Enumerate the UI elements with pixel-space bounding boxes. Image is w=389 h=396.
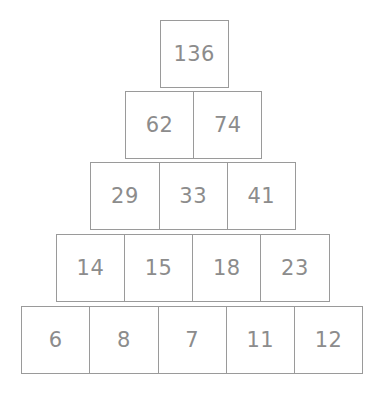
pyramid-cell[interactable]: 74 (193, 91, 262, 159)
pyramid-cell[interactable]: 136 (160, 20, 229, 88)
pyramid-row-4: 14 15 18 23 (56, 234, 330, 302)
pyramid-cell[interactable]: 12 (294, 306, 363, 374)
pyramid-cell[interactable]: 8 (89, 306, 158, 374)
pyramid-cell[interactable]: 7 (158, 306, 227, 374)
pyramid-cell[interactable]: 29 (90, 162, 159, 230)
pyramid-cell[interactable]: 62 (125, 91, 194, 159)
pyramid-cell[interactable]: 11 (226, 306, 295, 374)
pyramid-cell[interactable]: 6 (21, 306, 90, 374)
number-pyramid: 136 62 74 29 33 41 14 15 18 23 6 8 7 11 … (0, 0, 389, 396)
pyramid-cell[interactable]: 33 (159, 162, 228, 230)
pyramid-row-2: 62 74 (125, 91, 262, 159)
pyramid-cell[interactable]: 23 (260, 234, 329, 302)
pyramid-cell[interactable]: 15 (124, 234, 193, 302)
pyramid-cell[interactable]: 14 (56, 234, 125, 302)
pyramid-row-5: 6 8 7 11 12 (21, 306, 363, 374)
pyramid-cell[interactable]: 41 (227, 162, 296, 230)
pyramid-row-3: 29 33 41 (90, 162, 296, 230)
pyramid-cell[interactable]: 18 (192, 234, 261, 302)
pyramid-row-1: 136 (160, 20, 229, 88)
